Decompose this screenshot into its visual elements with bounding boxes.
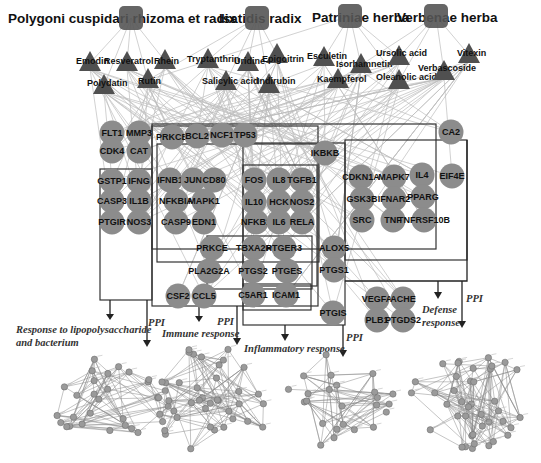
- gene-label: PTGES: [272, 266, 303, 276]
- gene-node-csf2: CSF2: [166, 284, 191, 309]
- ppi-node: [220, 357, 226, 363]
- gene-label: IFNB1: [157, 175, 183, 185]
- ppi-node: [213, 375, 219, 381]
- ppi-node: [412, 379, 418, 385]
- ppi-node: [471, 441, 477, 447]
- gene-label: PPARG: [407, 192, 438, 202]
- compound-label: Verbascoside: [418, 63, 476, 73]
- gene-node-edn1: EDN1: [192, 210, 217, 235]
- ppi-label: PPI: [148, 317, 166, 328]
- ppi-node: [159, 418, 165, 424]
- gene-label: ICAM1: [272, 290, 300, 300]
- gene-node-pparg: PPARG: [407, 185, 438, 210]
- ppi-node: [221, 424, 227, 430]
- gene-label: NCF1: [210, 130, 234, 140]
- ppi-node: [166, 397, 172, 403]
- ppi-node: [478, 411, 484, 417]
- compound-node-epigoitrin: Epigoitrin: [262, 43, 304, 64]
- gene-label: MAPK7: [378, 172, 410, 182]
- compound-node-rutin: Rutin: [137, 68, 161, 88]
- ppi-node: [171, 408, 177, 414]
- gene-label: IL10: [245, 197, 263, 207]
- ppi-node: [186, 347, 192, 353]
- ppi-node: [485, 355, 491, 361]
- gene-label: ALOX5: [319, 243, 349, 253]
- gene-label: CAT: [130, 146, 148, 156]
- ppi-node: [196, 397, 202, 403]
- gene-label: PTGS1: [319, 265, 349, 275]
- ppi-node: [508, 425, 514, 431]
- category-label-lps: Response to lipopolysaccharide: [15, 324, 152, 335]
- gene-node-casp9: CASP9: [161, 210, 191, 235]
- gene-label: FOS: [245, 175, 264, 185]
- ppi-node: [176, 379, 182, 385]
- gene-label: PRKCE: [196, 243, 228, 253]
- gene-label: TGFB1: [287, 175, 317, 185]
- gene-label: NOS3: [127, 217, 152, 227]
- ppi-node: [305, 391, 311, 397]
- ppi-node: [440, 361, 446, 367]
- herb-square-icon: [245, 6, 269, 30]
- ppi-label: PPI: [217, 316, 235, 327]
- ppi-node: [159, 379, 165, 385]
- gene-label: RELA: [290, 217, 315, 227]
- gene-label: EDN1: [192, 217, 216, 227]
- ppi-node: [135, 429, 141, 435]
- gene-node-cat: CAT: [127, 139, 152, 164]
- gene-label: MMP3: [126, 128, 152, 138]
- gene-label: CASP9: [161, 217, 191, 227]
- ppi-node: [328, 372, 334, 378]
- ppi-node: [202, 405, 208, 411]
- gene-label: PTGIR: [98, 217, 126, 227]
- ppi-node: [236, 401, 242, 407]
- herb-nodes: Polygoni cuspidari rhizoma et radixIsati…: [8, 4, 498, 30]
- ppi-node: [427, 427, 433, 433]
- ppi-node: [495, 408, 501, 414]
- ppi-node: [107, 427, 113, 433]
- ppi-node: [334, 426, 340, 432]
- ppi-node: [207, 400, 213, 406]
- compound-label: Rutin: [138, 76, 161, 86]
- ppi-node: [326, 386, 332, 392]
- ppi-node: [370, 370, 376, 376]
- compound-label: Polydatin: [87, 78, 128, 88]
- ppi-node: [198, 354, 204, 360]
- gene-label: MAPK1: [188, 196, 220, 206]
- ppi-node: [300, 373, 306, 379]
- ppi-node: [236, 388, 242, 394]
- gene-label: CCL5: [192, 291, 216, 301]
- ppi-node: [318, 442, 324, 448]
- ppi-node: [444, 401, 450, 407]
- ppi-inflammatory: [285, 351, 401, 449]
- ppi-node: [146, 376, 152, 382]
- gene-label: SRC: [352, 215, 372, 225]
- ppi-node: [225, 346, 231, 352]
- ppi-node: [230, 416, 236, 422]
- gene-label: IL6: [272, 217, 285, 227]
- category-label-defense: response: [422, 317, 460, 328]
- ppi-node: [383, 409, 389, 415]
- gene-node-ncf1: NCF1: [210, 123, 235, 148]
- gene-node-il6: IL6: [267, 210, 292, 235]
- ppi-node: [241, 364, 247, 370]
- gene-node-tp53: TP53: [233, 123, 258, 148]
- category-label-inflammatory: Inflammatory response: [243, 343, 345, 354]
- ppi-node: [58, 419, 64, 425]
- ppi-node: [303, 398, 309, 404]
- ppi-node: [451, 387, 457, 393]
- gene-label: HCK: [269, 197, 289, 207]
- ppi-node: [334, 382, 340, 388]
- gene-label: CSF2: [166, 291, 189, 301]
- gene-node-nos3: NOS3: [127, 210, 152, 235]
- gene-label: TP53: [234, 130, 256, 140]
- gene-node-cdk4: CDK4: [100, 139, 125, 164]
- compound-label: Ursolic acid: [376, 48, 427, 58]
- ppi-node: [91, 391, 97, 397]
- gene-label: TNFRSF10B: [398, 215, 451, 225]
- gene-label: PLA2G2A: [188, 266, 230, 276]
- ppi-node: [79, 421, 85, 427]
- gene-label: NOS2: [290, 197, 315, 207]
- gene-label: IFNAR2: [378, 194, 411, 204]
- ppi-lps: [54, 355, 176, 435]
- gene-label: IKBKB: [311, 148, 340, 158]
